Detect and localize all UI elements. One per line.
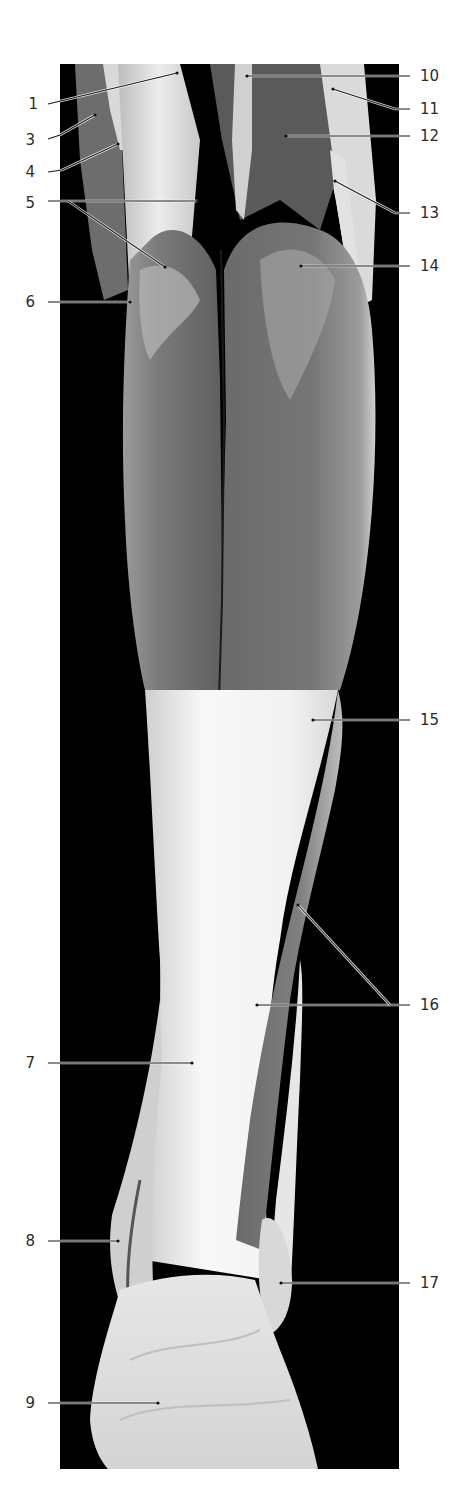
leader-endpoint-16-b [296,903,299,906]
label-number-8: 8 [25,1232,35,1250]
label-number-12: 12 [420,127,439,145]
leader-endpoint-16 [255,1003,258,1006]
label-number-11: 11 [420,100,439,118]
label-number-9: 9 [25,1394,35,1412]
leader-endpoint-6 [128,300,131,303]
label-number-15: 15 [420,711,439,729]
leader-endpoint-13 [333,179,336,182]
anatomical-figure: 134567891011121314151617 [0,0,470,1507]
label-number-6: 6 [25,293,35,311]
leader-endpoint-5-b [163,265,166,268]
label-number-1: 1 [28,95,38,113]
leader-endpoint-5 [196,199,199,202]
label-number-16: 16 [420,996,439,1014]
leader-endpoint-11 [331,87,334,90]
label-number-5: 5 [25,194,35,212]
leader-endpoint-8 [116,1239,119,1242]
leader-endpoint-17 [279,1281,282,1284]
leader-endpoint-3 [93,113,96,116]
label-number-7: 7 [25,1054,35,1072]
leader-endpoint-15 [311,718,314,721]
leader-endpoint-1 [175,71,178,74]
leader-endpoint-9 [156,1401,159,1404]
leader-endpoint-7 [190,1061,193,1064]
leader-endpoint-4 [116,142,119,145]
leader-endpoint-12 [284,134,287,137]
label-number-17: 17 [420,1274,439,1292]
label-number-14: 14 [420,257,439,275]
label-number-10: 10 [420,67,439,85]
label-number-13: 13 [420,204,439,222]
leader-endpoint-14 [299,264,302,267]
leader-endpoint-10 [245,74,248,77]
label-number-4: 4 [25,163,35,181]
label-number-3: 3 [25,131,35,149]
